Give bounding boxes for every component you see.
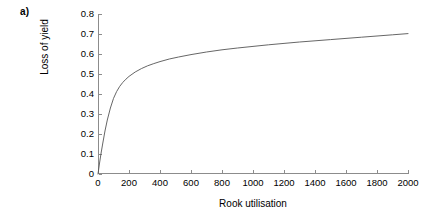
chart-svg [98, 14, 408, 174]
x-tick-label: 1000 [242, 178, 263, 188]
y-tick-label: 0.3 [81, 109, 94, 119]
figure-panel-a: a) Loss of yield Rook utilisation 00.10.… [0, 0, 424, 224]
y-tick-label: 0.8 [81, 9, 94, 19]
x-tick-label: 1600 [335, 178, 356, 188]
axis-spines [98, 14, 408, 174]
x-tick-label: 2000 [397, 178, 418, 188]
y-tick-label: 0.2 [81, 129, 94, 139]
data-line [98, 34, 408, 174]
x-tick-label: 800 [214, 178, 230, 188]
y-axis-label: Loss of yield [39, 0, 53, 97]
y-tick-label: 0.5 [81, 69, 94, 79]
y-tick-label: 0.4 [81, 89, 94, 99]
x-tick-label: 1400 [304, 178, 325, 188]
x-tick-label: 600 [183, 178, 199, 188]
y-tick-label: 0.7 [81, 29, 94, 39]
plot-area: 00.10.20.30.40.50.60.70.8 02004006008001… [98, 14, 408, 174]
x-tick-label: 400 [152, 178, 168, 188]
x-axis-label: Rook utilisation [98, 198, 408, 209]
tick-marks [98, 14, 408, 174]
panel-label: a) [20, 6, 29, 17]
y-tick-label: 0.6 [81, 49, 94, 59]
y-tick-label: 0 [89, 169, 94, 179]
x-tick-label: 1800 [366, 178, 387, 188]
x-tick-label: 0 [95, 178, 100, 188]
y-tick-label: 0.1 [81, 149, 94, 159]
x-tick-label: 1200 [273, 178, 294, 188]
data-series-group [98, 34, 408, 174]
x-tick-label: 200 [121, 178, 137, 188]
